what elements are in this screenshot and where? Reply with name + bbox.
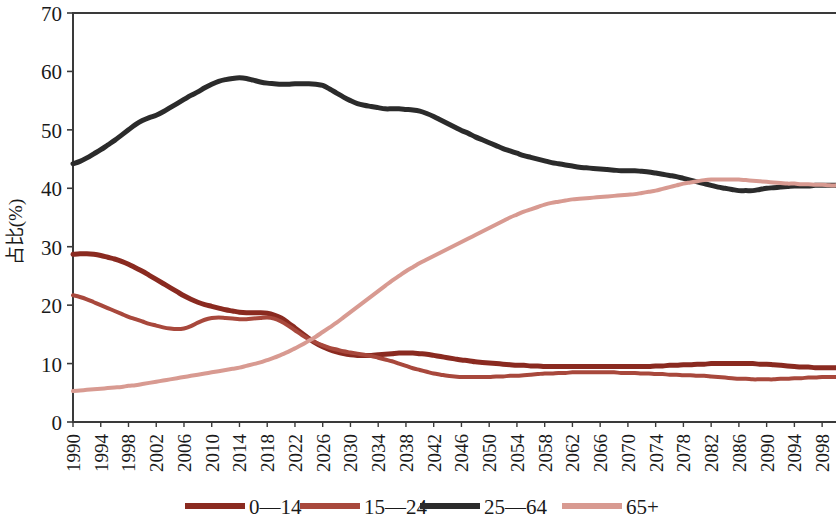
y-axis-tick-label: 30: [41, 236, 62, 260]
legend-item[interactable]: 25—64: [420, 495, 548, 519]
y-axis-title: 占比(%): [5, 199, 27, 265]
x-axis-tick-label: 2034: [368, 434, 389, 473]
legend-label: 65+: [626, 495, 659, 519]
y-axis-tick-labels: 010203040506070: [41, 2, 62, 435]
x-axis-tick-label: 2094: [784, 434, 805, 473]
x-axis-tick-label: 2010: [202, 434, 223, 472]
x-axis-tick-label: 2030: [340, 434, 361, 472]
x-axis-tick-label: 2006: [174, 434, 195, 472]
legend-label: 15—24: [364, 495, 428, 519]
x-axis-tick-label: 2014: [229, 434, 250, 473]
x-axis-tick-label: 2018: [257, 434, 278, 472]
x-axis-tick-labels: 1990199419982002200620102014201820222026…: [63, 434, 833, 473]
x-axis-tick-label: 2022: [285, 434, 306, 472]
x-axis-tick-label: 2082: [701, 434, 722, 472]
data-series-layer: [73, 78, 836, 391]
y-axis-tick-label: 40: [41, 177, 62, 201]
y-axis-title-group: 占比(%): [5, 199, 27, 265]
age-structure-line-chart: 010203040506070 199019941998200220062010…: [0, 0, 836, 522]
legend-item[interactable]: 15—24: [300, 495, 428, 519]
x-axis-tick-label: 2050: [479, 434, 500, 472]
x-axis-tick-label: 1990: [63, 434, 84, 472]
series-line-15-24: [73, 295, 836, 379]
x-axis-tick-label: 1994: [91, 434, 112, 473]
x-axis-tick-label: 2098: [812, 434, 833, 472]
x-axis-tick-label: 2002: [146, 434, 167, 472]
chart-legend: 0—1415—2425—6465+: [185, 495, 659, 519]
x-axis-tick-label: 2046: [451, 434, 472, 472]
y-axis-tick-label: 50: [41, 119, 62, 143]
legend-label: 0—14: [249, 495, 302, 519]
x-axis-tick-label: 2078: [673, 434, 694, 472]
legend-item[interactable]: 65+: [562, 495, 659, 519]
legend-label: 25—64: [484, 495, 548, 519]
chart-canvas: 010203040506070 199019941998200220062010…: [0, 0, 836, 522]
x-axis-tick-label: 2038: [396, 434, 417, 472]
x-axis-tick-label: 2066: [590, 434, 611, 472]
x-axis-tick-label: 2026: [313, 434, 334, 472]
y-axis-tick-label: 10: [41, 353, 62, 377]
y-axis-tick-label: 0: [52, 411, 63, 435]
x-axis-tick-label: 2090: [757, 434, 778, 472]
y-axis-tick-label: 60: [41, 60, 62, 84]
x-axis-tick-label: 2070: [618, 434, 639, 472]
legend-item[interactable]: 0—14: [185, 495, 302, 519]
x-axis-tick-label: 2062: [562, 434, 583, 472]
x-axis-tick-label: 2074: [646, 434, 667, 473]
series-line-25-64: [73, 78, 836, 191]
y-axis-tick-label: 20: [41, 294, 62, 318]
x-axis-tick-label: 1998: [118, 434, 139, 472]
x-axis-tick-label: 2058: [535, 434, 556, 472]
series-line-0-14: [73, 254, 836, 368]
y-axis-tick-label: 70: [41, 2, 62, 26]
x-axis-tick-label: 2042: [424, 434, 445, 472]
x-axis-tick-label: 2086: [729, 434, 750, 472]
x-axis-tick-label: 2054: [507, 434, 528, 473]
